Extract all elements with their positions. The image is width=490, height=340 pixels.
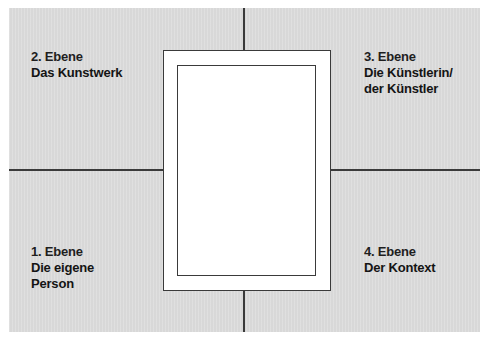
level-title: Der Kontext <box>364 260 435 276</box>
level-number: 1. Ebene <box>31 244 94 260</box>
level-title: Das Kunstwerk <box>31 65 122 81</box>
horizontal-divider-right <box>331 169 480 171</box>
vertical-divider-bottom <box>243 291 245 332</box>
quadrant-label-level-2: 2. Ebene Das Kunstwerk <box>31 49 122 81</box>
level-title-line-2: der Künstler <box>364 81 453 97</box>
picture-frame-inner <box>177 65 316 276</box>
level-title-line-1: Die eigene <box>31 260 94 276</box>
quadrant-label-level-1: 1. Ebene Die eigene Person <box>31 244 94 292</box>
diagram-canvas: 2. Ebene Das Kunstwerk 3. Ebene Die Küns… <box>0 0 490 340</box>
level-number: 3. Ebene <box>364 49 453 65</box>
vertical-divider-top <box>243 8 245 51</box>
quadrant-label-level-4: 4. Ebene Der Kontext <box>364 244 435 276</box>
horizontal-divider-left <box>9 169 164 171</box>
level-title-line-2: Person <box>31 276 94 292</box>
level-number: 2. Ebene <box>31 49 122 65</box>
level-number: 4. Ebene <box>364 244 435 260</box>
quadrant-label-level-3: 3. Ebene Die Künstlerin/ der Künstler <box>364 49 453 97</box>
level-title-line-1: Die Künstlerin/ <box>364 65 453 81</box>
